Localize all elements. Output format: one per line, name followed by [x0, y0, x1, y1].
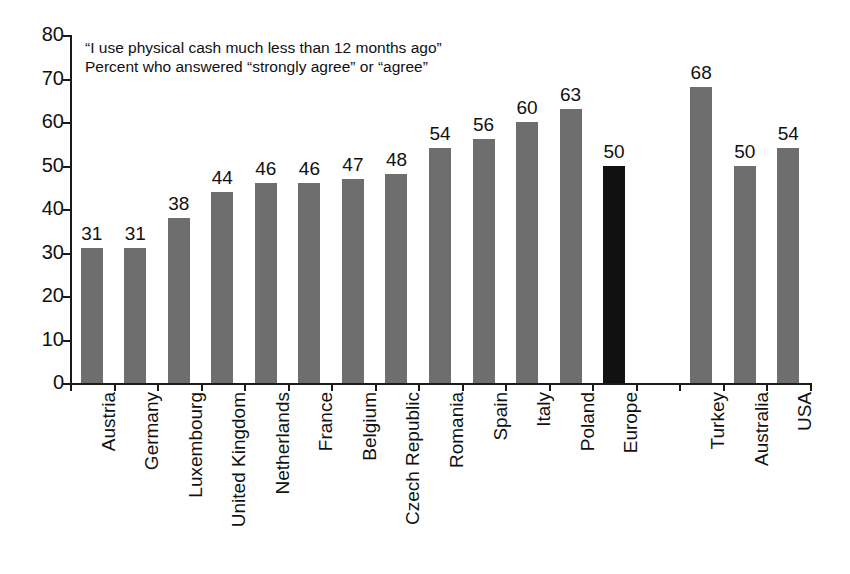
x-tick-mark — [375, 383, 377, 391]
bar-value-label: 38 — [168, 193, 189, 214]
x-label-spain: Spain — [491, 392, 510, 441]
y-tick-mark — [63, 296, 70, 298]
x-label-turkey: Turkey — [708, 392, 727, 449]
y-tick-label: 10 — [42, 328, 64, 350]
x-tick-mark — [766, 383, 768, 391]
x-tick-mark — [244, 383, 246, 391]
y-tick-label: 50 — [42, 154, 64, 176]
y-tick-mark — [63, 340, 70, 342]
bar-usa: 54 — [777, 148, 799, 383]
bar-france: 46 — [298, 183, 320, 383]
bar-turkey: 68 — [690, 87, 712, 383]
x-tick-mark — [418, 383, 420, 391]
x-label-united-kingdom: United Kingdom — [229, 392, 248, 527]
bar-value-label: 54 — [778, 123, 799, 144]
x-tick-mark — [549, 383, 551, 391]
bar-value-label: 68 — [691, 62, 712, 83]
y-tick-mark — [63, 209, 70, 211]
bar-value-label: 46 — [299, 158, 320, 179]
x-axis-line — [70, 383, 810, 385]
bar-poland: 63 — [560, 109, 582, 383]
chart-annotation: “I use physical cash much less than 12 m… — [85, 38, 442, 76]
bar-czech-republic: 48 — [385, 174, 407, 383]
x-tick-mark — [201, 383, 203, 391]
x-label-germany: Germany — [142, 392, 161, 470]
x-tick-mark — [810, 383, 812, 391]
x-tick-mark — [70, 383, 72, 391]
x-label-belgium: Belgium — [360, 392, 379, 461]
x-label-europe: Europe — [621, 392, 640, 453]
bar-netherlands: 46 — [255, 183, 277, 383]
bar-value-label: 31 — [81, 223, 102, 244]
annotation-line-1: “I use physical cash much less than 12 m… — [85, 38, 442, 57]
bar-belgium: 47 — [342, 179, 364, 383]
x-label-netherlands: Netherlands — [273, 392, 292, 494]
bar-value-label: 48 — [386, 149, 407, 170]
bar-austria: 31 — [81, 248, 103, 383]
y-tick-mark — [63, 79, 70, 81]
annotation-line-2: Percent who answered “strongly agree” or… — [85, 57, 442, 76]
bar-value-label: 54 — [429, 123, 450, 144]
y-tick-mark — [63, 122, 70, 124]
bar-value-label: 50 — [604, 141, 625, 162]
y-tick-mark — [63, 253, 70, 255]
bar-australia: 50 — [734, 166, 756, 384]
bar-italy: 60 — [516, 122, 538, 383]
bar-spain: 56 — [473, 139, 495, 383]
x-label-czech-republic: Czech Republic — [403, 392, 422, 525]
bar-value-label: 44 — [212, 167, 233, 188]
y-tick-label: 70 — [42, 67, 64, 89]
y-tick-mark — [63, 35, 70, 37]
bar-germany: 31 — [124, 248, 146, 383]
bar-chart: 31313844464647485456606350685054 0102030… — [0, 0, 850, 574]
bar-value-label: 60 — [516, 97, 537, 118]
bar-romania: 54 — [429, 148, 451, 383]
bar-value-label: 46 — [255, 158, 276, 179]
x-label-austria: Austria — [99, 392, 118, 451]
x-tick-mark — [505, 383, 507, 391]
bar-luxembourg: 38 — [168, 218, 190, 383]
x-label-france: France — [316, 392, 335, 451]
x-tick-mark — [636, 383, 638, 391]
y-tick-label: 60 — [42, 110, 64, 132]
x-tick-mark — [723, 383, 725, 391]
x-tick-mark — [157, 383, 159, 391]
y-tick-label: 0 — [53, 371, 64, 393]
y-tick-label: 80 — [42, 23, 64, 45]
x-tick-mark — [114, 383, 116, 391]
plot-area: 31313844464647485456606350685054 — [70, 35, 810, 383]
x-label-poland: Poland — [578, 392, 597, 451]
x-label-australia: Australia — [752, 392, 771, 466]
y-tick-label: 20 — [42, 284, 64, 306]
x-tick-mark — [288, 383, 290, 391]
y-tick-label: 40 — [42, 197, 64, 219]
bar-united-kingdom: 44 — [211, 192, 233, 383]
x-label-luxembourg: Luxembourg — [186, 392, 205, 498]
y-tick-mark — [63, 383, 70, 385]
x-label-italy: Italy — [534, 392, 553, 427]
bar-value-label: 56 — [473, 114, 494, 135]
x-label-romania: Romania — [447, 392, 466, 468]
x-label-usa: USA — [795, 392, 814, 431]
bar-value-label: 31 — [125, 223, 146, 244]
x-tick-mark — [331, 383, 333, 391]
x-tick-mark — [679, 383, 681, 391]
y-tick-label: 30 — [42, 241, 64, 263]
x-tick-mark — [462, 383, 464, 391]
bar-value-label: 47 — [342, 154, 363, 175]
bar-value-label: 50 — [734, 141, 755, 162]
bar-europe: 50 — [603, 166, 625, 384]
x-tick-mark — [592, 383, 594, 391]
y-tick-mark — [63, 166, 70, 168]
bar-value-label: 63 — [560, 84, 581, 105]
